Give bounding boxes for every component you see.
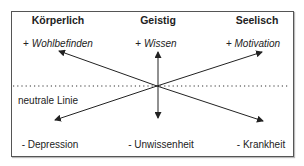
label-wohlbefinden: + Wohlbefinden (23, 38, 93, 50)
header-koerperlich: Körperlich (32, 14, 85, 26)
label-krankheit: - Krankheit (237, 139, 285, 151)
minus-sign: - (128, 139, 131, 150)
arrow-krankheit (157, 86, 263, 121)
arrow-wohlbefinden (59, 51, 157, 86)
neutral-line-label: neutrale Linie (18, 95, 78, 107)
arrow-motivation (157, 52, 262, 86)
plus-sign: + (23, 38, 29, 49)
label-wissen: + Wissen (135, 38, 176, 50)
positive-label: Wohlbefinden (32, 38, 93, 49)
negative-label: Depression (28, 139, 79, 150)
header-geistig: Geistig (140, 14, 176, 26)
label-motivation: + Motivation (226, 38, 280, 50)
positive-label: Motivation (235, 38, 281, 49)
minus-sign: - (237, 139, 240, 150)
header-seelisch: Seelisch (236, 14, 279, 26)
label-unwissenheit: - Unwissenheit (128, 139, 194, 151)
plus-sign: + (226, 38, 232, 49)
label-depression: - Depression (22, 139, 79, 151)
minus-sign: - (22, 139, 25, 150)
negative-label: Krankheit (243, 139, 285, 150)
negative-label: Unwissenheit (134, 139, 193, 150)
plus-sign: + (135, 38, 141, 49)
positive-label: Wissen (144, 38, 177, 49)
